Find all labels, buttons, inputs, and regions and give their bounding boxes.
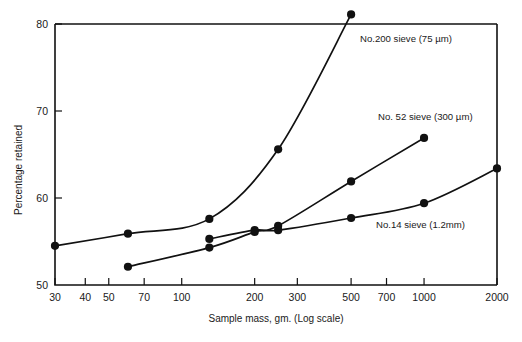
data-point [124, 230, 132, 238]
data-point [347, 214, 355, 222]
data-point [124, 263, 132, 271]
x-tick-label: 300 [289, 291, 307, 303]
series-curve-1 [55, 14, 351, 245]
y-axis-title: Percentage retained [13, 125, 24, 215]
series-labels: No.200 sieve (75 µm)No. 52 sieve (300 µm… [360, 33, 473, 230]
data-point [274, 226, 282, 234]
data-point [251, 226, 259, 234]
x-axis-title: Sample mass, gm. (Log scale) [208, 313, 343, 324]
axis-lines [55, 24, 497, 285]
x-tick-label: 500 [342, 291, 360, 303]
data-point [205, 235, 213, 243]
chart-container: 50607080 3040507010020030050070010002000… [0, 0, 522, 342]
x-tick-label: 70 [138, 291, 150, 303]
x-tick-label: 40 [79, 291, 91, 303]
x-tick-label: 700 [378, 291, 396, 303]
data-point [347, 177, 355, 185]
series-curve-2 [128, 138, 424, 267]
x-tick-label: 100 [173, 291, 191, 303]
data-point [205, 215, 213, 223]
y-tick-label: 60 [36, 192, 48, 204]
x-tick-label: 2000 [485, 291, 509, 303]
data-point [420, 199, 428, 207]
series-points [51, 10, 501, 271]
x-tick-label: 30 [49, 291, 61, 303]
series-label-3: No.14 sieve (1.2mm) [376, 219, 465, 230]
data-point [493, 164, 501, 172]
data-point [274, 145, 282, 153]
data-point [347, 10, 355, 18]
x-tick-label: 1000 [412, 291, 436, 303]
data-point [205, 243, 213, 251]
x-tick-label: 50 [103, 291, 115, 303]
x-tick-label: 200 [246, 291, 264, 303]
series-label-2: No. 52 sieve (300 µm) [378, 111, 473, 122]
y-tick-label: 70 [36, 105, 48, 117]
axis-frame [55, 24, 497, 285]
x-axis-ticks: 3040507010020030050070010002000 [49, 278, 509, 303]
y-tick-label: 50 [36, 279, 48, 291]
series-label-1: No.200 sieve (75 µm) [360, 33, 452, 44]
y-axis-ticks: 50607080 [36, 18, 62, 291]
y-tick-label: 80 [36, 18, 48, 30]
sieve-retention-chart: 50607080 3040507010020030050070010002000… [0, 0, 522, 342]
data-point [51, 242, 59, 250]
data-point [420, 134, 428, 142]
